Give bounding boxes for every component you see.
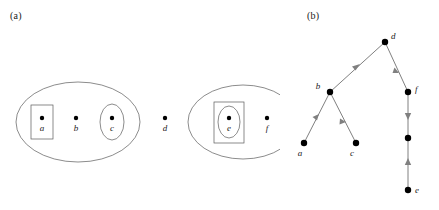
panel-b-label: (b) [307, 10, 319, 21]
graph-node-b [327, 89, 333, 95]
member-a-rectangle [31, 105, 53, 139]
panel-b: (b) d b [280, 0, 439, 210]
left-group-outer-ellipse [16, 82, 140, 162]
point-c [110, 116, 114, 120]
graph-node-c-label: c [350, 148, 354, 158]
edge-a-to-b-arrowhead [313, 114, 320, 121]
member-c-ellipse [100, 104, 124, 140]
graph-node-f-label: f [415, 84, 419, 94]
point-a-label: a [40, 123, 45, 133]
graph-node-middle [405, 135, 411, 141]
point-a [40, 116, 44, 120]
point-e [227, 116, 231, 120]
edge-d-to-f [385, 42, 408, 92]
edge-e-to-m-arrowhead [405, 158, 411, 165]
point-d-label: d [163, 123, 168, 133]
edge-b-to-c-arrowhead [340, 119, 347, 125]
graph-node-a [301, 140, 307, 146]
point-b [74, 116, 78, 120]
point-f-label: f [266, 123, 270, 133]
member-e-ellipse [218, 106, 240, 138]
right-group-outer-ellipse [188, 85, 280, 159]
graph-node-c [353, 140, 359, 146]
point-f [265, 116, 269, 120]
panel-a-canvas: a b c d e f [0, 0, 280, 210]
graph-node-f [405, 89, 411, 95]
graph-node-b-label: b [316, 81, 321, 91]
graph-node-d-label: d [391, 31, 396, 41]
graph-node-d [382, 39, 388, 45]
point-d [163, 116, 167, 120]
figure-root: (a) a b c d e [0, 0, 439, 210]
point-e-label: e [227, 123, 231, 133]
graph-node-a-label: a [298, 148, 303, 158]
graph-node-e-label: e [415, 185, 419, 195]
point-b-label: b [74, 123, 79, 133]
edge-b-to-d-arrowhead [352, 64, 360, 71]
edge-f-to-m-arrowhead [405, 113, 411, 120]
panel-a-label: (a) [10, 10, 22, 21]
panel-b-canvas: d b f a c e [280, 0, 439, 210]
edge-b-to-c [330, 92, 356, 143]
panel-a: (a) a b c d e [0, 0, 280, 210]
graph-node-e [405, 187, 411, 193]
point-c-label: c [110, 123, 114, 133]
